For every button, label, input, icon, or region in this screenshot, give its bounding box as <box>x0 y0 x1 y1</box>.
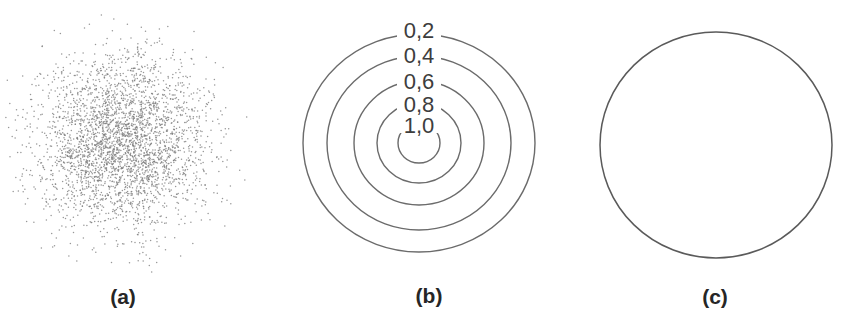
panel-c-label: (c) <box>702 285 728 308</box>
contour-label: 0,2 <box>404 18 435 43</box>
contour-label: 0,4 <box>404 43 435 68</box>
figure-svg: (a) 0,20,40,60,81,0 (b) (c) <box>0 0 853 333</box>
gaussian-density-three-panel-figure: (a) 0,20,40,60,81,0 (b) (c) <box>0 0 853 333</box>
panel-b-label: (b) <box>416 284 443 307</box>
boundary-circle <box>600 32 832 258</box>
panel-a-label: (a) <box>110 285 136 308</box>
panel-a-scatter: (a) <box>5 14 247 307</box>
contour-label: 1,0 <box>404 113 435 138</box>
contour-level-labels: 0,20,40,60,81,0 <box>404 18 435 139</box>
panel-c-boundary: (c) <box>600 32 832 308</box>
scatter-point-cloud <box>5 14 247 272</box>
panel-b-contour-plot: 0,20,40,60,81,0 (b) <box>303 18 535 307</box>
contour-label: 0,6 <box>404 69 435 94</box>
